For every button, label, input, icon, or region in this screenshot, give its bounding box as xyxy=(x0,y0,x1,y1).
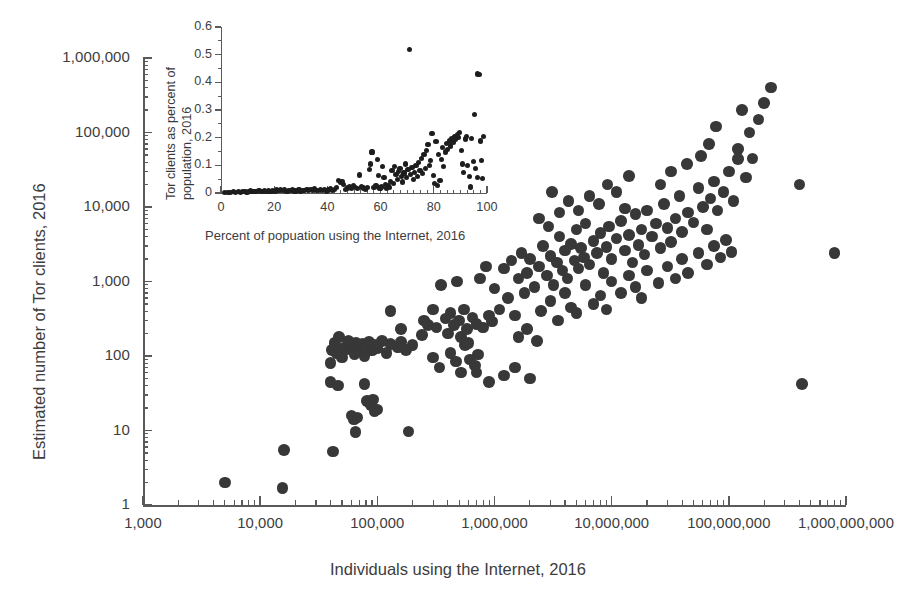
axis-tick xyxy=(764,500,765,505)
axis-tick xyxy=(143,430,152,432)
data-point xyxy=(376,335,388,347)
inset-data-point xyxy=(427,163,432,168)
axis-tick xyxy=(143,292,148,293)
data-point xyxy=(682,267,694,279)
axis-tick xyxy=(367,190,368,194)
inset-data-point xyxy=(460,161,465,166)
data-point xyxy=(483,310,495,322)
axis-tick xyxy=(377,496,379,505)
axis-tick xyxy=(365,500,366,505)
inset-data-point xyxy=(424,148,429,153)
data-point xyxy=(720,234,732,246)
axis-tick xyxy=(143,320,148,321)
data-point xyxy=(519,287,531,299)
data-point xyxy=(325,376,337,388)
inset-data-point xyxy=(441,164,446,169)
inset-data-point xyxy=(435,183,440,188)
axis-tick-label: 40 xyxy=(320,200,334,214)
axis-tick-label: 0.2 xyxy=(194,130,212,144)
inset-data-point xyxy=(399,174,404,179)
inset-data-point xyxy=(421,152,426,157)
axis-tick xyxy=(143,433,148,434)
axis-tick xyxy=(218,151,222,152)
inset-data-point xyxy=(467,174,472,179)
axis-tick-label: 80 xyxy=(427,200,441,214)
data-point xyxy=(431,322,443,334)
axis-tick xyxy=(468,500,469,505)
data-point xyxy=(726,246,738,258)
axis-tick xyxy=(473,190,474,194)
axis-tick xyxy=(143,61,148,62)
inset-data-point xyxy=(403,161,408,166)
axis-tick xyxy=(143,218,148,219)
axis-tick xyxy=(143,135,148,136)
axis-tick xyxy=(143,74,148,75)
axis-tick xyxy=(295,500,296,505)
data-point xyxy=(353,341,365,353)
data-point xyxy=(753,114,765,126)
inset-data-point xyxy=(452,134,457,139)
axis-tick xyxy=(287,190,288,194)
data-point xyxy=(591,247,603,259)
axis-tick xyxy=(380,186,381,193)
axis-tick xyxy=(143,288,148,289)
inset-data-point xyxy=(351,183,356,188)
data-point xyxy=(360,342,372,354)
data-point xyxy=(595,227,607,239)
inset-data-point xyxy=(334,185,339,190)
axis-tick xyxy=(143,154,148,155)
data-point xyxy=(584,190,596,202)
inset-data-point xyxy=(400,179,405,184)
data-point xyxy=(619,245,631,257)
data-point xyxy=(602,179,614,191)
data-point xyxy=(359,378,371,390)
axis-tick xyxy=(143,385,148,386)
axis-tick-label: 100 xyxy=(476,200,497,214)
inset-y-axis-line xyxy=(221,27,222,194)
inset-data-point xyxy=(393,172,398,177)
inset-data-point xyxy=(338,180,343,185)
data-point xyxy=(363,336,375,348)
axis-tick xyxy=(143,469,148,470)
axis-tick xyxy=(387,190,388,194)
data-point xyxy=(708,176,720,188)
data-point xyxy=(338,342,350,354)
axis-tick xyxy=(143,452,148,453)
inset-data-point xyxy=(274,187,279,192)
axis-tick xyxy=(359,500,360,505)
inset-data-point xyxy=(401,170,406,175)
data-point xyxy=(565,302,577,314)
axis-tick xyxy=(218,179,222,180)
axis-tick xyxy=(307,190,308,194)
axis-tick xyxy=(400,190,401,194)
axis-tick xyxy=(529,500,530,505)
axis-tick xyxy=(810,500,811,505)
data-point xyxy=(715,252,727,264)
data-point xyxy=(395,323,407,335)
data-point xyxy=(641,265,653,277)
data-point xyxy=(450,356,462,368)
data-point xyxy=(277,482,289,494)
data-point xyxy=(546,186,558,198)
inset-y-axis-title-line2: population, 2016 xyxy=(179,0,195,200)
data-point xyxy=(422,319,434,331)
axis-tick-label: 100,000 xyxy=(350,515,404,531)
inset-data-point xyxy=(473,166,478,171)
axis-tick xyxy=(218,40,222,41)
axis-tick xyxy=(143,148,148,149)
data-point xyxy=(619,203,631,215)
inset-data-point xyxy=(478,138,483,143)
axis-tick xyxy=(143,143,148,144)
data-point xyxy=(427,304,439,316)
axis-tick xyxy=(248,500,249,505)
data-point xyxy=(448,319,460,331)
axis-tick xyxy=(143,441,148,442)
data-point xyxy=(723,166,735,178)
data-point xyxy=(435,279,447,291)
axis-tick xyxy=(143,132,152,134)
inset-data-point xyxy=(451,140,456,145)
data-point xyxy=(580,218,592,230)
axis-tick xyxy=(433,186,434,193)
axis-tick xyxy=(433,500,434,505)
data-point xyxy=(627,257,639,269)
